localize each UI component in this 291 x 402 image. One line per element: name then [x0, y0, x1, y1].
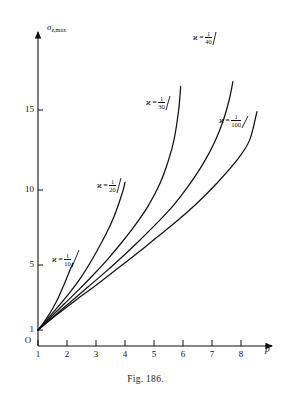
curve-1-30: [38, 86, 181, 330]
figure-caption: Fig. 186.: [0, 374, 291, 384]
y-tick-label-5: 5: [20, 259, 34, 269]
equals-sign: =: [102, 181, 110, 190]
y-axis-label: σz,max: [47, 22, 66, 33]
x-tick-marks: [38, 340, 241, 346]
x-tick-label-8: 8: [234, 349, 248, 359]
x-tick-label-5: 5: [147, 349, 161, 359]
equals-sign: =: [224, 116, 232, 125]
x-tick-label-3: 3: [89, 349, 103, 359]
x-tick-label-6: 6: [176, 349, 190, 359]
fraction: 110: [64, 253, 71, 267]
equals-sign: =: [198, 33, 206, 42]
fraction: 1100: [231, 114, 241, 128]
x-tick-label-4: 4: [118, 349, 132, 359]
x-tick-label-2: 2: [60, 349, 74, 359]
figure-container: σz,max p O 1 5 10 15 1 2 3 4 5 6 7 8 ϰ=1…: [0, 0, 291, 402]
leader-10: [72, 250, 79, 267]
x-axis-label: p: [265, 344, 272, 354]
y-tick-label-1: 1: [20, 324, 34, 334]
x-tick-label-1: 1: [31, 349, 45, 359]
equals-sign: =: [151, 98, 159, 107]
y-tick-label-15: 15: [14, 104, 34, 114]
curve-label-1-100: ϰ=1100: [219, 114, 241, 128]
y-tick-marks: [38, 110, 43, 330]
leader-100: [242, 116, 248, 128]
curve-label-1-30: ϰ=130: [146, 96, 165, 110]
curve-1-10: [38, 263, 73, 330]
fraction: 120: [109, 179, 116, 193]
curve-label-1-40: ϰ=140: [193, 31, 212, 45]
curve-1-40: [38, 82, 233, 330]
x-tick-label-7: 7: [205, 349, 219, 359]
equals-sign: =: [57, 255, 65, 264]
leader-30: [166, 96, 170, 110]
leader-40: [213, 32, 216, 45]
fraction: 140: [205, 31, 212, 45]
curve-label-1-20: ϰ=120: [97, 179, 116, 193]
origin-label: O: [22, 335, 34, 345]
label-leader-lines: [72, 32, 248, 267]
y-axis-subscript: z,max: [51, 27, 66, 33]
leader-20: [117, 178, 121, 193]
overbar-icon: [265, 345, 272, 346]
curve-label-1-10: ϰ=110: [52, 253, 71, 267]
y-tick-label-10: 10: [14, 184, 34, 194]
plot-canvas: [0, 0, 291, 402]
fraction: 130: [158, 96, 165, 110]
